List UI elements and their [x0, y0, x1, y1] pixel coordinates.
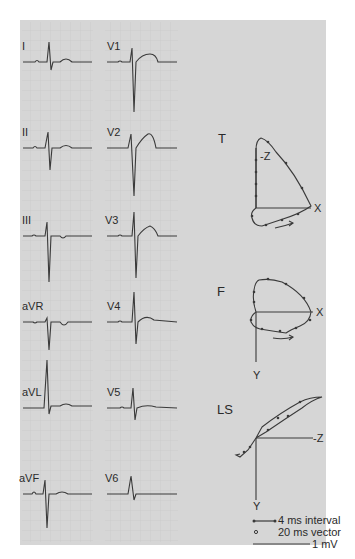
axis-label-T-minus-z: -Z [260, 150, 270, 162]
vectorcardiogram-loops [0, 0, 355, 559]
axis-label-F-x: X [316, 306, 323, 318]
vcg-plane-label-T: T [218, 131, 226, 146]
axis-label-F-y: Y [253, 369, 260, 381]
vcg-left-sagittal [236, 397, 322, 500]
vcg-plane-label-LS: LS [217, 402, 233, 417]
vcg-plane-label-F: F [217, 284, 225, 299]
legend-vector: 20 ms vector [278, 526, 341, 538]
vcg-frontal [251, 279, 313, 362]
legend-scale: 1 mV [312, 538, 338, 550]
axis-label-LS-y: Y [253, 500, 260, 512]
axis-label-LS-minus-z: -Z [313, 432, 323, 444]
legend-interval: 4 ms interval [278, 514, 340, 526]
axis-label-T-x: X [314, 202, 321, 214]
